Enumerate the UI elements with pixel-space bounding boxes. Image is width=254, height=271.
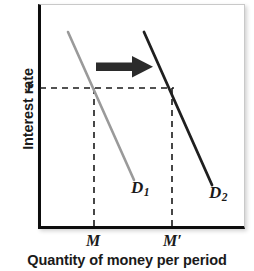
x-tick-label-m: M <box>86 232 100 250</box>
curve-label-d2: D2 <box>209 183 228 204</box>
curve-label-d1-base: D <box>131 178 143 197</box>
y-tick-label-r: r <box>27 78 33 96</box>
demand-curve-d1 <box>68 32 134 180</box>
demand-curve-d2 <box>144 32 212 185</box>
x-tick-label-m-prime: M′ <box>163 232 182 250</box>
curve-label-d2-base: D <box>209 183 221 202</box>
curve-label-d2-subscript: 2 <box>221 191 227 204</box>
plot-canvas <box>0 0 254 271</box>
shift-arrow-icon <box>96 56 153 78</box>
x-axis-label: Quantity of money per period <box>0 252 254 268</box>
money-demand-shift-figure: Interest rate Quantity of money per peri… <box>0 0 254 271</box>
y-axis-label: Interest rate <box>20 34 36 184</box>
curve-label-d1-subscript: 1 <box>143 186 149 199</box>
curve-label-d1: D1 <box>131 178 150 199</box>
